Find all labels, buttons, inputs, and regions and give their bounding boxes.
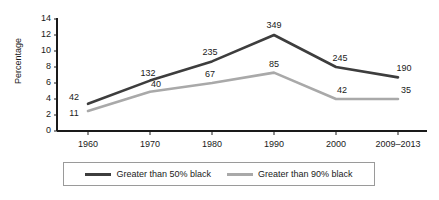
data-point-label: 85 xyxy=(269,60,279,69)
chart-canvas xyxy=(0,0,439,145)
data-point-label: 11 xyxy=(69,109,78,118)
x-axis-tick-label: 2000 xyxy=(326,139,346,149)
data-point-label: 349 xyxy=(266,21,281,30)
x-axis-tick-label: 1980 xyxy=(202,139,222,149)
x-axis-tick-label: 2009–2013 xyxy=(375,139,420,149)
series-line-2 xyxy=(88,73,398,111)
line-chart: Percentage 14121086420 19601970198019902… xyxy=(0,0,439,200)
plot-area xyxy=(0,0,439,145)
x-axis-tick-label: 1960 xyxy=(78,139,98,149)
y-axis-tick-label: 8 xyxy=(33,62,51,71)
legend-item-label: Greater than 50% black xyxy=(116,169,211,179)
legend-item-series-1[interactable]: Greater than 50% black xyxy=(85,169,211,179)
data-point-label: 235 xyxy=(202,48,217,57)
y-axis-tick-label: 6 xyxy=(33,78,51,87)
x-axis-tick-label: 1970 xyxy=(140,139,160,149)
legend-item-series-2[interactable]: Greater than 90% black xyxy=(227,169,353,179)
data-point-label: 42 xyxy=(69,93,79,102)
x-axis-tick-label: 1990 xyxy=(264,139,284,149)
y-axis-tick-label: 2 xyxy=(33,110,51,119)
y-axis-tick-label: 12 xyxy=(33,30,51,39)
data-point-label: 42 xyxy=(337,86,347,95)
data-point-label: 190 xyxy=(396,64,411,73)
y-axis-title: Percentage xyxy=(13,21,23,101)
data-point-label: 132 xyxy=(140,69,155,78)
data-point-label: 67 xyxy=(205,70,215,79)
y-axis-tick-label: 10 xyxy=(33,46,51,55)
data-point-label: 40 xyxy=(151,80,161,89)
legend-swatch-icon xyxy=(85,173,111,176)
y-axis-tick-label: 0 xyxy=(33,126,51,135)
chart-legend: Greater than 50% black Greater than 90% … xyxy=(63,162,375,186)
series-line-1 xyxy=(88,35,398,104)
data-point-label: 245 xyxy=(332,54,347,63)
y-axis-tick-label: 14 xyxy=(33,14,51,23)
data-point-label: 35 xyxy=(401,86,411,95)
legend-item-label: Greater than 90% black xyxy=(258,169,353,179)
legend-swatch-icon xyxy=(227,173,253,176)
y-axis-tick-label: 4 xyxy=(33,94,51,103)
